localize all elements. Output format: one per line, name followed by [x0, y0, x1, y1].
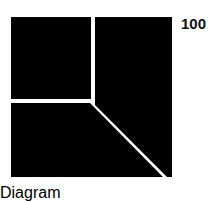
figure-canvas: 100 [0, 0, 220, 184]
region-top-left [11, 17, 91, 99]
value-label-100: 100 [181, 15, 206, 32]
